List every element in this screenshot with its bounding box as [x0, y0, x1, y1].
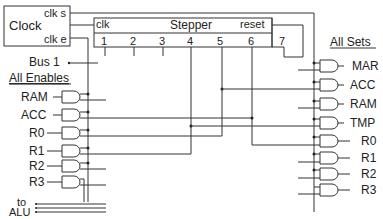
alu-label-alu: ALU [9, 206, 30, 218]
step-2: 2 [130, 35, 136, 47]
step-5: 5 [217, 35, 223, 47]
enable-step-wires [80, 47, 252, 185]
and-gate-icon [62, 176, 80, 188]
enables-heading: All Enables [9, 71, 69, 85]
step-1: 1 [101, 35, 107, 47]
set-gates: MAR ACC RAM TMP R0 R1 R2 [298, 59, 379, 197]
and-gate-icon [62, 91, 80, 103]
control-unit-diagram: Clock clk s clk e clk Stepper reset 1 2 … [0, 0, 383, 219]
and-gate-icon [320, 184, 338, 196]
and-gate-icon [62, 109, 80, 121]
and-gate-icon [62, 160, 80, 172]
clock-block: Clock clk s clk e [4, 6, 70, 46]
reset-feedback-wire [272, 25, 303, 57]
and-gate-icon [320, 152, 338, 164]
bus-1-arrow-icon [68, 62, 70, 64]
clock-title: Clock [9, 18, 42, 33]
and-gate-icon [320, 117, 338, 129]
stepper-title: Stepper [170, 18, 212, 32]
set-label-acc: ACC [350, 78, 376, 92]
enable-label-r3: R3 [29, 175, 45, 189]
and-gate-icon [62, 145, 80, 157]
set-label-r1: R1 [361, 151, 377, 165]
set-label-mar: MAR [352, 59, 379, 73]
enable-label-r2: R2 [29, 159, 45, 173]
enable-label-r1: R1 [29, 144, 45, 158]
enable-label-acc: ACC [21, 108, 47, 122]
bus-1-label: Bus 1 [29, 55, 60, 69]
set-label-tmp: TMP [350, 116, 375, 130]
sets-heading: All Sets [330, 35, 371, 49]
enable-label-r0: R0 [29, 126, 45, 140]
alu-arrow-icon [35, 207, 37, 209]
to-alu: to ALU [9, 196, 106, 218]
step-3: 3 [159, 35, 165, 47]
clock-output-e: clk e [44, 33, 67, 45]
and-gate-icon [320, 79, 338, 91]
and-gate-icon [62, 127, 80, 139]
set-label-ram: RAM [350, 97, 377, 111]
alu-arrow-icon [35, 203, 37, 205]
set-label-r0: R0 [361, 134, 377, 148]
junction-dot [251, 117, 254, 120]
stepper-reset-label: reset [240, 18, 264, 30]
step-6: 6 [248, 35, 254, 47]
clock-output-s: clk s [44, 7, 67, 19]
set-label-r2: R2 [361, 167, 377, 181]
enable-label-ram: RAM [21, 90, 48, 104]
step-4: 4 [187, 35, 193, 47]
alu-arrow-icon [35, 211, 37, 213]
and-gate-icon [320, 98, 338, 110]
step-7: 7 [279, 35, 285, 47]
and-gate-icon [320, 168, 338, 180]
and-gate-icon [320, 135, 338, 147]
and-gate-icon [320, 60, 338, 72]
stepper-clk-label: clk [96, 18, 110, 30]
set-label-r3: R3 [361, 183, 377, 197]
enable-gates: RAM ACC R0 R1 R2 R3 [21, 90, 80, 189]
stepper-block: clk Stepper reset 1 2 3 4 5 6 7 [94, 18, 285, 47]
